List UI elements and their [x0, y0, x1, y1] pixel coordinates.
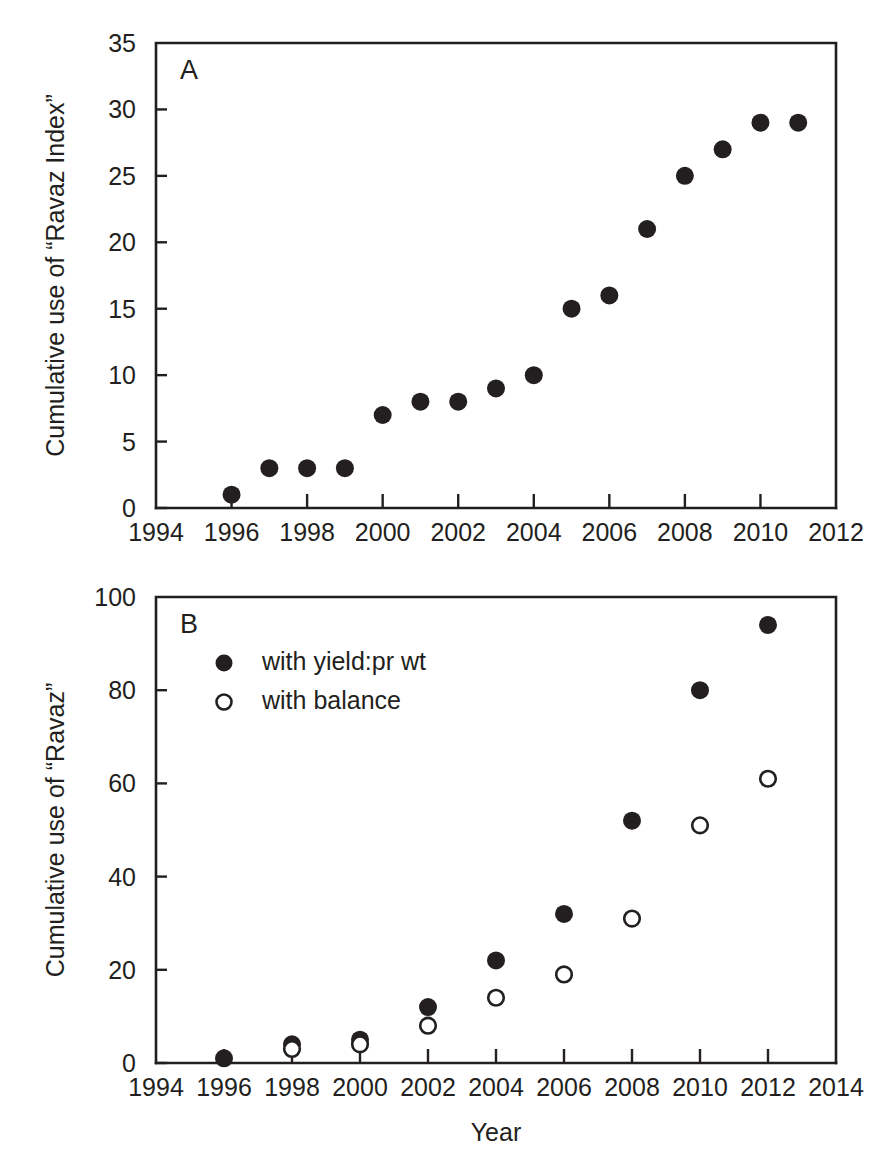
- panel-b-y-ticklabel: 80: [108, 676, 136, 704]
- legend-marker-open-circle: [217, 695, 232, 710]
- data-point-filled: [411, 393, 429, 411]
- figure-container: 0510152025303519941996199820002002200420…: [0, 0, 888, 1170]
- panel-b-x-ticklabel: 2012: [740, 1073, 796, 1101]
- panel-b-x-ticklabel: 1996: [196, 1073, 252, 1101]
- panel-b-y-ticklabel: 60: [108, 769, 136, 797]
- data-point-filled: [374, 406, 392, 424]
- panel-a-y-ticklabel: 15: [108, 295, 136, 323]
- panel-b-y-ticklabel: 100: [94, 583, 136, 611]
- panel-a: 0510152025303519941996199820002002200420…: [41, 29, 864, 546]
- panel-b-y-ticklabel: 40: [108, 863, 136, 891]
- panel-a-x-ticklabel: 2004: [506, 518, 562, 546]
- panel-b-x-ticklabel: 2006: [536, 1073, 592, 1101]
- panel-a-frame: [156, 43, 836, 508]
- data-point-filled: [555, 905, 573, 923]
- panel-a-y-axis-title: Cumulative use of “Ravaz Index”: [41, 94, 69, 457]
- data-point-open: [352, 1037, 368, 1053]
- panel-b-x-ticklabel: 2014: [808, 1073, 864, 1101]
- legend-marker-filled-circle: [216, 655, 233, 672]
- data-point-filled: [487, 951, 505, 969]
- panel-a-y-ticklabel: 5: [122, 428, 136, 456]
- data-point-filled: [691, 681, 709, 699]
- panel-a-label-letter: A: [180, 55, 198, 85]
- data-point-filled: [759, 616, 777, 634]
- panel-b-x-ticklabel: 2004: [468, 1073, 524, 1101]
- panel-a-x-ticklabel: 2006: [582, 518, 638, 546]
- data-point-filled: [419, 998, 437, 1016]
- panel-a-x-ticklabel: 2012: [808, 518, 864, 546]
- data-point-open: [760, 771, 776, 787]
- panel-b-x-ticklabel: 2002: [400, 1073, 456, 1101]
- panel-b-x-axis-title: Year: [471, 1118, 522, 1146]
- data-point-open: [624, 911, 640, 927]
- panel-a-y-ticklabel: 10: [108, 361, 136, 389]
- data-point-filled: [789, 114, 807, 132]
- legend-entry-label: with yield:pr wt: [261, 647, 426, 675]
- panel-b-x-ticklabel: 2010: [672, 1073, 728, 1101]
- panel-b-x-ticklabel: 1998: [264, 1073, 320, 1101]
- data-point-open: [692, 818, 708, 834]
- panel-b-x-ticklabel: 1994: [128, 1073, 184, 1101]
- data-point-filled: [563, 300, 581, 318]
- data-point-filled: [525, 366, 543, 384]
- series-with-balance: [284, 771, 776, 1057]
- panel-a-x-ticklabel: 2008: [657, 518, 713, 546]
- data-point-filled: [676, 167, 694, 185]
- panel-a-x-ticklabel: 2000: [355, 518, 411, 546]
- scatter-plot-figure: 0510152025303519941996199820002002200420…: [0, 0, 888, 1170]
- panel-b-x-ticklabel: 2008: [604, 1073, 660, 1101]
- data-point-filled: [623, 812, 641, 830]
- panel-b-y-ticklabel: 20: [108, 956, 136, 984]
- panel-a-x-ticklabel: 1996: [204, 518, 260, 546]
- panel-a-x-ticklabel: 2002: [430, 518, 486, 546]
- data-point-filled: [260, 459, 278, 477]
- panel-a-y-ticklabel: 35: [108, 29, 136, 57]
- data-point-filled: [298, 459, 316, 477]
- panel-b: 0204060801001994199619982000200220042006…: [41, 583, 864, 1146]
- data-point-open: [556, 967, 572, 983]
- series-ravaz-index: [223, 114, 808, 504]
- panel-a-y-ticklabel: 25: [108, 162, 136, 190]
- panel-a-x-ticklabel: 1994: [128, 518, 184, 546]
- data-point-filled: [600, 286, 618, 304]
- panel-b-y-axis-title: Cumulative use of “Ravaz”: [41, 683, 69, 978]
- data-point-filled: [714, 140, 732, 158]
- panel-a-y-ticklabel: 20: [108, 228, 136, 256]
- panel-b-x-ticklabel: 2000: [332, 1073, 388, 1101]
- data-point-filled: [487, 379, 505, 397]
- data-point-open: [420, 1018, 436, 1034]
- data-point-filled: [215, 1049, 233, 1067]
- data-point-open: [488, 990, 504, 1006]
- legend-entry-label: with balance: [261, 686, 401, 714]
- panel-a-y-ticklabel: 30: [108, 95, 136, 123]
- data-point-filled: [223, 486, 241, 504]
- panel-a-x-ticklabel: 1998: [279, 518, 335, 546]
- data-point-filled: [336, 459, 354, 477]
- data-point-filled: [751, 114, 769, 132]
- data-point-filled: [638, 220, 656, 238]
- panel-b-label-letter: B: [180, 609, 198, 639]
- data-point-filled: [449, 393, 467, 411]
- data-point-open: [284, 1041, 300, 1057]
- panel-a-x-ticklabel: 2010: [733, 518, 789, 546]
